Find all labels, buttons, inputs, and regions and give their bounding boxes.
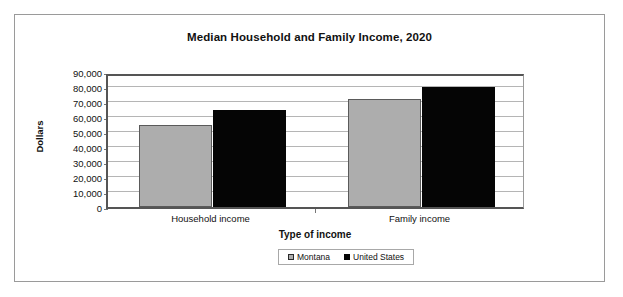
- bar-united-states-family-income: [422, 87, 495, 207]
- x-axis-title: Type of income: [106, 229, 524, 240]
- chart-title: Median Household and Family Income, 2020: [15, 31, 604, 43]
- y-axis-tick-label: 70,000: [46, 99, 102, 109]
- y-axis-tick-label: 60,000: [46, 114, 102, 124]
- legend-label: United States: [353, 252, 404, 262]
- y-axis-tick-label: 40,000: [46, 144, 102, 154]
- legend-swatch-montana: [288, 254, 294, 260]
- y-axis-tick-label: 0: [46, 204, 102, 214]
- x-axis-tick-label: Household income: [106, 213, 315, 224]
- y-axis-tick-mark: [104, 209, 108, 210]
- x-axis-tick-mark: [315, 209, 316, 213]
- legend-swatch-united-states: [344, 254, 350, 260]
- y-axis-tick-label: 20,000: [46, 174, 102, 184]
- y-axis-tick-label: 50,000: [46, 129, 102, 139]
- x-axis-tick-label: Family income: [315, 213, 524, 224]
- x-axis-tick-labels: Household incomeFamily income: [106, 213, 524, 229]
- y-axis-tick-label: 90,000: [46, 69, 102, 79]
- plot-area: [106, 74, 524, 209]
- bar-montana-family-income: [348, 99, 421, 207]
- chart-legend: MontanaUnited States: [278, 249, 414, 265]
- chart-frame: Median Household and Family Income, 2020…: [14, 14, 605, 282]
- legend-entry: United States: [344, 252, 404, 262]
- y-axis-tick-labels: 010,00020,00030,00040,00050,00060,00070,…: [46, 67, 102, 217]
- legend-entry: Montana: [288, 252, 330, 262]
- legend-label: Montana: [297, 252, 330, 262]
- y-axis-title: Dollars: [34, 107, 45, 167]
- bar-montana-household-income: [139, 125, 212, 208]
- y-axis-tick-label: 30,000: [46, 159, 102, 169]
- bars-layer: [108, 76, 523, 207]
- y-axis-tick-label: 10,000: [46, 189, 102, 199]
- bar-united-states-household-income: [213, 110, 286, 208]
- y-axis-tick-label: 80,000: [46, 84, 102, 94]
